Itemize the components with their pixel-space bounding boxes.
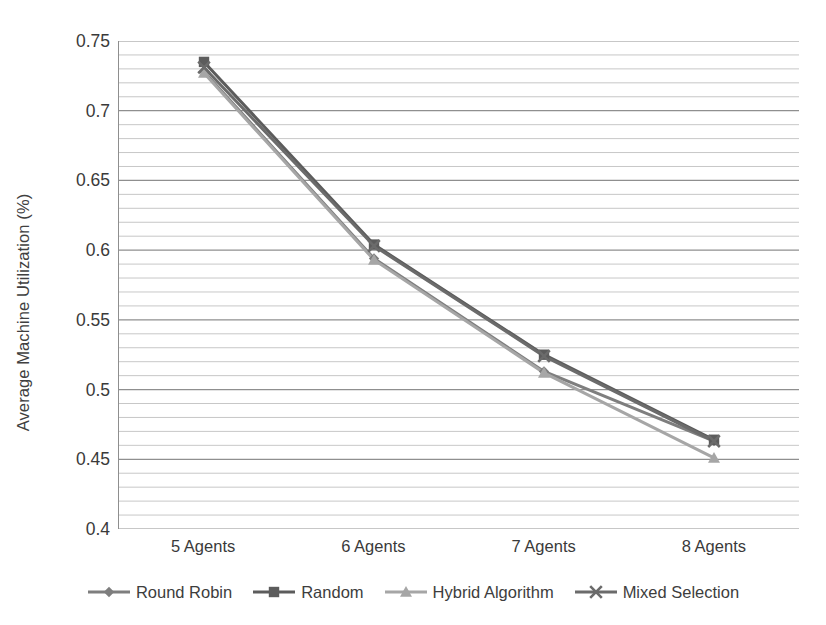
chart-legend: Round RobinRandomHybrid AlgorithmMixed S… bbox=[0, 575, 826, 609]
x-marker-icon bbox=[574, 584, 618, 600]
y-axis-tick-labels: 0.40.450.50.550.60.650.70.75 bbox=[48, 41, 110, 529]
y-axis-tick-label: 0.7 bbox=[86, 100, 110, 121]
y-axis-tick-label: 0.55 bbox=[76, 309, 110, 330]
diamond-marker-icon bbox=[87, 584, 131, 600]
legend-item-mixed-selection[interactable]: Mixed Selection bbox=[574, 583, 739, 602]
chart-container: Average Machine Utilization (%) 0.40.450… bbox=[0, 0, 826, 625]
y-axis-title: Average Machine Utilization (%) bbox=[0, 0, 46, 625]
triangle-marker-icon bbox=[384, 584, 428, 600]
x-axis-tick-label: 8 Agents bbox=[682, 537, 746, 556]
plot-frame bbox=[118, 41, 799, 529]
x-axis-tick-labels: 5 Agents6 Agents7 Agents8 Agents bbox=[118, 537, 799, 565]
x-axis-tick-label: 7 Agents bbox=[512, 537, 576, 556]
y-axis-tick-label: 0.4 bbox=[86, 519, 110, 540]
square-marker-icon bbox=[252, 584, 296, 600]
y-axis-tick-label: 0.6 bbox=[86, 240, 110, 261]
legend-label: Round Robin bbox=[136, 583, 232, 602]
legend-item-random[interactable]: Random bbox=[252, 583, 363, 602]
y-axis-tick-label: 0.45 bbox=[76, 449, 110, 470]
y-axis-tick-label: 0.75 bbox=[76, 31, 110, 52]
x-axis-tick-label: 5 Agents bbox=[171, 537, 235, 556]
plot-area bbox=[118, 41, 799, 529]
legend-item-hybrid-algorithm[interactable]: Hybrid Algorithm bbox=[384, 583, 554, 602]
legend-label: Hybrid Algorithm bbox=[433, 583, 554, 602]
data-series-layer bbox=[119, 41, 799, 529]
legend-label: Random bbox=[301, 583, 363, 602]
x-axis-tick-label: 6 Agents bbox=[341, 537, 405, 556]
y-axis-tick-label: 0.5 bbox=[86, 379, 110, 400]
legend-item-round-robin[interactable]: Round Robin bbox=[87, 583, 232, 602]
legend-label: Mixed Selection bbox=[623, 583, 739, 602]
y-axis-tick-label: 0.65 bbox=[76, 170, 110, 191]
